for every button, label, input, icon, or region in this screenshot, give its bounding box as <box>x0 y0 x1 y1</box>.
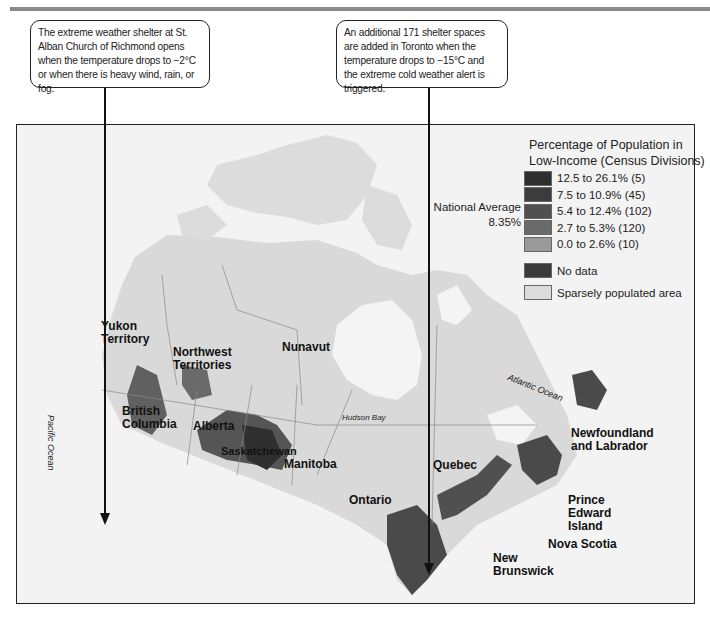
pointer-line-richmond <box>104 88 106 516</box>
legend-item: 0.0 to 2.6% (10) <box>524 236 682 253</box>
label-pacific-ocean: Pacific Ocean <box>46 415 56 471</box>
label-newfoundland-labrador: Newfoundland and Labrador <box>571 427 654 453</box>
arctic-islands <box>207 135 377 225</box>
legend-item: No data <box>524 260 682 282</box>
national-average: National Average 8.35% <box>433 200 521 230</box>
legend-swatch <box>524 263 552 278</box>
top-rule <box>10 7 710 11</box>
label-bc: British Columbia <box>122 405 177 431</box>
label-ontario: Ontario <box>349 494 392 507</box>
label-quebec: Quebec <box>433 459 477 472</box>
legend-item: 2.7 to 5.3% (120) <box>524 220 682 237</box>
label-nova-scotia: Nova Scotia <box>548 538 617 551</box>
label-nunavut: Nunavut <box>282 341 330 354</box>
legend-item: 7.5 to 10.9% (45) <box>524 187 682 204</box>
legend-swatch <box>524 285 552 300</box>
arrow-head-icon <box>424 563 434 575</box>
legend-swatch <box>524 171 552 186</box>
label-manitoba: Manitoba <box>284 458 337 471</box>
legend-item: Sparsely populated area <box>524 282 682 304</box>
legend-title: Percentage of Population in Low-Income (… <box>529 137 705 169</box>
pointer-line-toronto <box>428 88 430 566</box>
callout-toronto: An additional 171 shelter spaces are add… <box>336 20 508 88</box>
legend-swatch <box>524 204 552 219</box>
callout-richmond: The extreme weather shelter at St. Alban… <box>30 20 210 88</box>
label-hudson-bay: Hudson Bay <box>342 413 386 422</box>
arrow-head-icon <box>100 513 110 525</box>
newfoundland <box>572 370 607 410</box>
label-nwt: Northwest Territories <box>173 346 232 372</box>
legend-swatch <box>524 220 552 235</box>
label-alberta: Alberta <box>193 420 234 433</box>
legend-item: 5.4 to 12.4% (102) <box>524 203 682 220</box>
legend-swatch <box>524 237 552 252</box>
label-pei: Prince Edward Island <box>568 494 611 533</box>
legend: 12.5 to 26.1% (5) 7.5 to 10.9% (45) 5.4 … <box>524 170 682 304</box>
legend-item: 12.5 to 26.1% (5) <box>524 170 682 187</box>
label-new-brunswick: New Brunswick <box>493 552 554 578</box>
label-yukon: Yukon Territory <box>101 320 149 346</box>
legend-swatch <box>524 187 552 202</box>
